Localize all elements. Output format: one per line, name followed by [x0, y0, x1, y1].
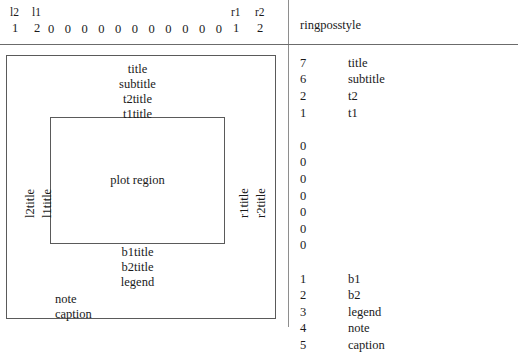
- header-zero-value: 0: [132, 22, 138, 36]
- style-row-number: 5: [300, 338, 348, 353]
- header-label-r2: r2: [255, 6, 265, 18]
- style-row-number: 0: [300, 139, 348, 154]
- style-row-label: note: [348, 321, 370, 336]
- style-row: 6subtitle: [300, 72, 500, 89]
- style-row: 0: [300, 204, 500, 221]
- style-row-number: 7: [300, 56, 348, 71]
- style-row-label: caption: [348, 338, 385, 353]
- style-row-number: 0: [300, 189, 348, 204]
- right-label-r2title: r2title: [255, 188, 268, 218]
- style-row: [300, 254, 500, 271]
- style-row-label: b2: [348, 288, 361, 303]
- style-row: 2t2: [300, 88, 500, 105]
- style-row: 0: [300, 188, 500, 205]
- style-row: 0: [300, 155, 500, 172]
- left-label-l2title: l2title: [24, 189, 37, 218]
- style-row: [300, 121, 500, 138]
- style-row: 4note: [300, 321, 500, 338]
- index-header: l2 1 l1 2 00000000000 r1 1 r2 2: [0, 2, 288, 44]
- header-zero-value: 0: [165, 22, 171, 36]
- style-row-number: 6: [300, 72, 348, 87]
- header-zero-value: 0: [98, 22, 104, 36]
- bottom-label-b1title: b1title: [50, 245, 225, 259]
- style-row-label: b1: [348, 272, 361, 287]
- plot-region-label: plot region: [50, 173, 225, 187]
- header-value-l2: 1: [12, 22, 18, 35]
- header-zero-value: 0: [115, 22, 121, 36]
- style-row-number: 1: [300, 106, 348, 121]
- top-label-t1title: t1title: [50, 107, 225, 121]
- left-label-l1title: l1title: [41, 189, 54, 218]
- pane-divider: [288, 0, 289, 327]
- header-zero-values: 00000000000: [48, 22, 222, 36]
- header-zero-value: 0: [82, 22, 88, 36]
- style-row: 0: [300, 238, 500, 255]
- header-rule: [0, 44, 518, 45]
- style-row-number: 0: [300, 222, 348, 237]
- style-row-number: 2: [300, 288, 348, 303]
- style-row-number: 0: [300, 155, 348, 170]
- style-row-label: legend: [348, 305, 381, 320]
- style-row-number: 4: [300, 321, 348, 336]
- style-row-label: subtitle: [348, 72, 385, 87]
- corner-label-caption: caption: [55, 307, 92, 321]
- top-label-t2title: t2title: [50, 92, 225, 106]
- header-zero-value: 0: [216, 22, 222, 36]
- header-value-r1: 1: [233, 22, 239, 35]
- style-row-label: t1: [348, 106, 358, 121]
- header-value-r2: 2: [257, 22, 263, 35]
- header-value-l1: 2: [34, 22, 40, 35]
- style-row: 0: [300, 171, 500, 188]
- ringposstyle-table: 7title6subtitle2t21t100000001b12b23legen…: [300, 55, 500, 354]
- style-row: 2b2: [300, 287, 500, 304]
- style-row: 3legend: [300, 304, 500, 321]
- bottom-label-legend: legend: [50, 275, 225, 289]
- top-label-subtitle: subtitle: [50, 77, 225, 91]
- style-row: 1t1: [300, 105, 500, 122]
- top-label-title: title: [50, 62, 225, 76]
- header-label-r1: r1: [231, 6, 241, 18]
- style-row-number: 0: [300, 172, 348, 187]
- style-row-number: 1: [300, 272, 348, 287]
- right-label-r1title: r1title: [238, 188, 251, 218]
- header-zero-value: 0: [182, 22, 188, 36]
- style-row: 7title: [300, 55, 500, 72]
- header-label-l1: l1: [32, 6, 41, 18]
- style-row: 0: [300, 221, 500, 238]
- header-zero-value: 0: [149, 22, 155, 36]
- header-zero-value: 0: [65, 22, 71, 36]
- style-row-number: 3: [300, 305, 348, 320]
- header-zero-value: 0: [48, 22, 54, 36]
- ringposstyle-title: ringposstyle: [300, 18, 361, 32]
- bottom-label-b2title: b2title: [50, 260, 225, 274]
- style-row-number: 0: [300, 238, 348, 253]
- style-row-number: 2: [300, 89, 348, 104]
- header-label-l2: l2: [10, 6, 19, 18]
- header-zero-value: 0: [199, 22, 205, 36]
- style-row: 0: [300, 138, 500, 155]
- style-row-number: 0: [300, 205, 348, 220]
- style-row: 5caption: [300, 337, 500, 354]
- style-row: 1b1: [300, 271, 500, 288]
- style-row-label: title: [348, 56, 367, 71]
- style-row-label: t2: [348, 89, 358, 104]
- corner-label-note: note: [55, 292, 77, 306]
